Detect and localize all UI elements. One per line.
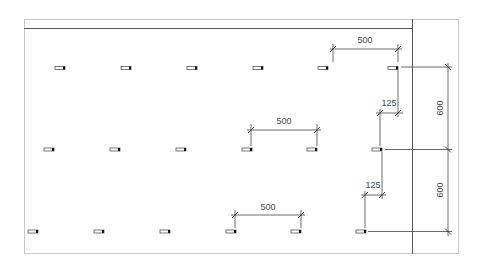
fixture-row-3 [28,230,366,233]
dimension-label: 600 [435,182,445,197]
fixture-mark [253,67,263,70]
dimension-bottom-500: 500 [231,202,305,228]
dimension-label: 500 [260,202,275,212]
fixture-mark [160,230,170,233]
fixture-mark [28,230,38,233]
drawing-frame [25,20,459,254]
fixture-mark [226,230,236,233]
fixture-mark [372,148,382,151]
fixture-mark [318,67,328,70]
fixture-mark [187,67,197,70]
fixture-mark [356,230,366,233]
dimension-lower-125: 125 [361,152,386,228]
dimension-upper-125: 125 [376,70,403,146]
fixture-row-1 [55,67,398,70]
fixture-mark [44,148,54,151]
fixture-mark [110,148,120,151]
fixture-mark [242,148,252,151]
dimension-top-500: 500 [330,35,402,62]
fixture-mark [176,148,186,151]
layout-drawing: 500 500 500 125 125 [0,0,485,267]
dimension-middle-500: 500 [247,116,321,146]
dimension-label: 500 [357,35,372,45]
dimension-label: 600 [435,100,445,115]
dimension-label: 125 [365,180,380,190]
fixture-mark [94,230,104,233]
fixture-mark [121,67,131,70]
dimension-label: 125 [381,98,396,108]
dimension-label: 500 [276,116,291,126]
fixture-mark [291,230,301,233]
fixture-mark [388,67,398,70]
fixture-mark [307,148,317,151]
fixture-row-2 [44,148,382,151]
fixture-mark [55,67,65,70]
